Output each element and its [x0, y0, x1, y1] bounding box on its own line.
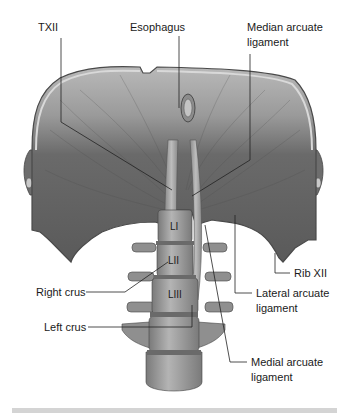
label-lateral-arcuate-line2: ligament	[256, 302, 298, 315]
label-medial-arcuate-line1: Medial arcuate	[251, 356, 323, 369]
label-median-arcuate-line2: ligament	[247, 36, 289, 49]
label-vertebra-l2: LII	[168, 254, 179, 267]
diaphragm-illustration	[0, 0, 347, 413]
label-lateral-arcuate-line1: Lateral arcuate	[256, 287, 329, 300]
label-right-crus: Right crus	[36, 286, 86, 299]
esophageal-hiatus	[181, 94, 195, 122]
label-median-arcuate-line1: Median arcuate	[247, 21, 323, 34]
label-left-crus: Left crus	[44, 321, 86, 334]
label-esophagus: Esophagus	[130, 21, 185, 34]
label-vertebra-l3: LIII	[168, 288, 182, 301]
label-rib-xii: Rib XII	[294, 267, 327, 280]
diaphragm-figure: TXII Esophagus Median arcuate ligament R…	[0, 0, 347, 413]
label-medial-arcuate-line2: ligament	[251, 371, 293, 384]
label-txii: TXII	[38, 21, 58, 34]
footer-divider-bar	[12, 408, 337, 413]
label-vertebra-l1: LI	[170, 220, 178, 233]
